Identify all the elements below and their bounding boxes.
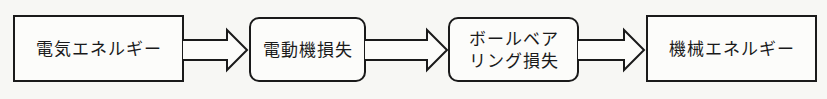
node-label: 機械エネルギー (669, 38, 795, 60)
block-arrow-icon (578, 28, 648, 72)
node-label-line-2: リング損失 (469, 50, 559, 72)
node-mechanical-energy: 機械エネルギー (646, 15, 817, 82)
node-ball-bearing-loss: ボールベア リング損失 (448, 17, 579, 82)
block-arrow-icon (365, 28, 451, 72)
block-arrow-icon (183, 28, 251, 72)
node-electric-energy: 電気エネルギー (13, 15, 184, 82)
node-label: 電動機損失 (263, 39, 353, 61)
node-motor-loss: 電動機損失 (249, 17, 366, 82)
node-label-line-1: ボールベア (469, 28, 559, 50)
node-label: 電気エネルギー (36, 38, 162, 60)
